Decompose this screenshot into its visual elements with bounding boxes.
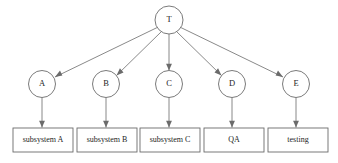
node-box-qa[interactable]: QA xyxy=(204,128,264,152)
node-e[interactable]: E xyxy=(283,71,310,98)
box-label-subsystem-b: subsystem B xyxy=(87,135,128,144)
edge-t-to-b xyxy=(117,32,162,76)
arrow-head-a-box xyxy=(39,121,45,128)
box-label-testing: testing xyxy=(287,135,308,144)
node-c[interactable]: C xyxy=(156,71,183,98)
box-label-subsystem-c: subsystem C xyxy=(150,135,191,144)
node-box-subsystem-c[interactable]: subsystem C xyxy=(140,128,200,152)
edge-e-to-box-e xyxy=(293,98,299,128)
edge-b-to-box-b xyxy=(103,98,109,128)
node-box-subsystem-b[interactable]: subsystem B xyxy=(77,128,137,152)
arrow-head-b-box xyxy=(103,121,109,128)
node-b[interactable]: B xyxy=(93,71,120,98)
edge-group-root xyxy=(55,28,283,78)
node-label-t: T xyxy=(166,14,172,24)
arrow-head-t-e xyxy=(276,71,283,78)
node-label-c: C xyxy=(166,78,172,88)
edge-t-to-c xyxy=(166,34,172,71)
arrow-head-t-a xyxy=(55,71,62,78)
edge-line-t-b xyxy=(117,32,162,76)
box-label-qa: QA xyxy=(228,135,240,144)
edge-t-to-a xyxy=(55,28,157,78)
edge-line-t-d xyxy=(177,32,222,76)
node-label-e: E xyxy=(293,78,298,88)
arrow-head-d-box xyxy=(229,121,235,128)
diagram-canvas: T A B C D E subsystem A xyxy=(0,0,338,163)
arrow-head-e-box xyxy=(293,121,299,128)
node-label-d: D xyxy=(229,78,235,88)
arrow-head-t-c xyxy=(166,64,172,71)
edge-line-t-a xyxy=(55,28,157,78)
node-box-testing[interactable]: testing xyxy=(268,128,328,152)
arrow-head-c-box xyxy=(166,121,172,128)
tree-diagram: T A B C D E subsystem A xyxy=(0,0,338,163)
node-label-a: A xyxy=(39,78,46,88)
node-box-subsystem-a[interactable]: subsystem A xyxy=(13,128,73,152)
edge-line-t-e xyxy=(181,28,283,78)
edge-d-to-box-d xyxy=(229,98,235,128)
edge-a-to-box-a xyxy=(39,98,45,128)
node-d[interactable]: D xyxy=(219,71,246,98)
edge-t-to-d xyxy=(177,32,222,76)
edge-c-to-box-c xyxy=(166,98,172,128)
node-label-b: B xyxy=(103,78,109,88)
box-label-subsystem-a: subsystem A xyxy=(23,135,64,144)
edge-t-to-e xyxy=(181,28,283,78)
node-root-t[interactable]: T xyxy=(155,6,183,34)
edge-group-leaves xyxy=(39,98,299,128)
node-a[interactable]: A xyxy=(29,71,56,98)
